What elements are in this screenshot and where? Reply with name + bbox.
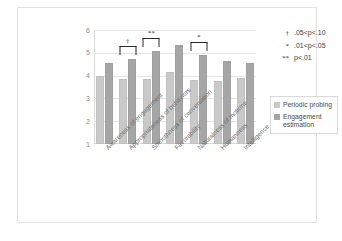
significance-key-text: .05<p<.10 [294,29,326,36]
bar [223,61,231,144]
significance-mark: ** [143,30,160,38]
y-tick-3: 3 [68,95,90,102]
significance-key-symbol: † [273,29,289,37]
y-tick-6: 6 [68,27,90,34]
significance-key-row: **p<.01 [273,54,342,62]
legend-item: Engagement estimation [274,113,334,129]
chart-frame: 6 5 4 3 2 1 †*** Awareness of engagement… [17,7,317,223]
significance-bracket: ** [143,30,160,47]
significance-key-row: *.01<p<.05 [273,42,342,50]
significance-mark: * [190,34,207,42]
y-tick-1: 1 [68,141,90,148]
series-legend: Periodic probingEngagement estimation [270,96,338,134]
y-tick-5: 5 [68,49,90,56]
significance-key-symbol: * [273,42,289,50]
legend-label: Engagement estimation [283,113,334,129]
legend-swatch [274,102,280,108]
bar [128,59,136,144]
y-axis-ticks: 6 5 4 3 2 1 [66,30,90,144]
bar [105,63,113,144]
significance-key: †.05<p<.10*.01<p<.05**p<.01 [273,29,342,67]
bar-group [94,30,114,144]
bracket-shape [190,42,207,51]
legend-swatch [274,114,280,120]
significance-mark: † [119,38,136,46]
significance-key-text: p<.01 [294,54,312,61]
significance-key-symbol: ** [273,54,289,62]
significance-key-text: .01<p<.05 [294,42,326,49]
y-tick-2: 2 [68,118,90,125]
legend-label: Periodic probing [283,101,332,109]
bracket-shape [119,46,136,55]
legend-item: Periodic probing [274,101,334,109]
bar [96,76,104,144]
significance-key-row: †.05<p<.10 [273,29,342,37]
y-tick-4: 4 [68,72,90,79]
x-axis-labels: Awareness of engagementAppropriateness o… [94,146,264,230]
bracket-shape [143,38,160,47]
significance-bracket: * [190,34,207,51]
significance-bracket: † [119,38,136,55]
